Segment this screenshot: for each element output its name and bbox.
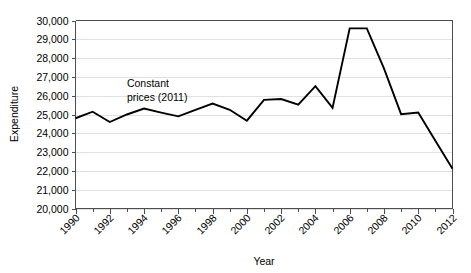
y-tick-label-20000: 20,000 [36, 203, 68, 215]
y-tick-label-28000: 28,000 [36, 52, 68, 64]
x-axis-title: Year [253, 255, 275, 267]
annotation-line-2: prices (2011) [127, 91, 188, 103]
y-tick-labels-group: 20,00021,00022,00023,00024,00025,00026,0… [36, 15, 68, 215]
y-axis-title: Expenditure [8, 86, 20, 142]
annotation-line-1: Constant [127, 77, 169, 89]
chart-canvas: 20,00021,00022,00023,00024,00025,00026,0… [0, 0, 471, 273]
y-tick-label-30000: 30,000 [36, 15, 68, 27]
y-tick-label-27000: 27,000 [36, 71, 68, 83]
y-tick-label-29000: 29,000 [36, 33, 68, 45]
y-tick-label-23000: 23,000 [36, 146, 68, 158]
y-tick-label-24000: 24,000 [36, 127, 68, 139]
expenditure-line-chart: 20,00021,00022,00023,00024,00025,00026,0… [0, 0, 471, 273]
y-tick-label-21000: 21,000 [36, 184, 68, 196]
y-tick-label-22000: 22,000 [36, 165, 68, 177]
y-tick-label-26000: 26,000 [36, 90, 68, 102]
y-tick-label-25000: 25,000 [36, 109, 68, 121]
